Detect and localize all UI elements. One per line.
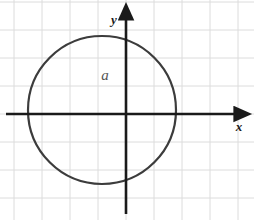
drawing-layer: x y a [0,0,254,220]
region-label-a: a [101,67,109,83]
figure-coordinate-plane: x y a [0,0,254,220]
y-axis-label: y [109,12,117,27]
circle-shape [28,36,176,184]
x-axis-label: x [235,119,243,134]
